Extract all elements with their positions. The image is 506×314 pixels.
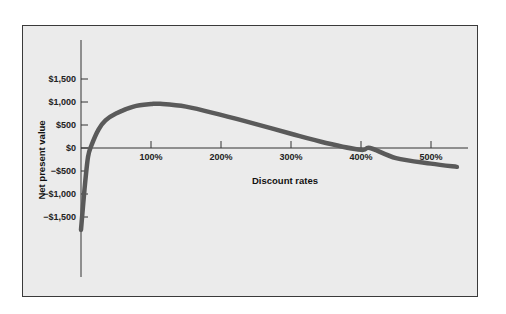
npv-chart: $1,500$1,000$500$0−$500−$1,000−$1,500 10…	[0, 0, 506, 314]
npv-curve	[81, 104, 457, 230]
y-tick-label: −$1,500	[43, 212, 76, 222]
y-tick-label: $1,500	[48, 74, 76, 84]
y-tick-label: −$1,000	[43, 189, 76, 199]
x-axis-title: Discount rates	[252, 175, 318, 186]
y-tick-label: $1,000	[48, 97, 76, 107]
x-tick-label: 200%	[209, 152, 232, 162]
x-tick-label: 100%	[139, 152, 162, 162]
y-tick-label: −$500	[51, 166, 76, 176]
y-tick-label: $0	[66, 143, 76, 153]
y-tick-label: $500	[56, 120, 76, 130]
x-tick-label: 300%	[279, 152, 302, 162]
x-tick-label: 400%	[349, 152, 372, 162]
y-axis-title: Net present value	[36, 120, 47, 199]
